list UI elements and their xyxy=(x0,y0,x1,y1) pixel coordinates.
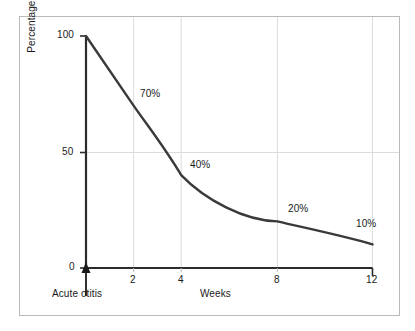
acute-otitis-label: Acute otitis xyxy=(52,288,102,299)
data-label-40-percent: 40% xyxy=(190,159,210,170)
y-tick-label-100: 100 xyxy=(57,29,74,40)
y-tick-label-50: 50 xyxy=(62,146,73,157)
chart-figure: 100 50 0 2 4 8 12 70% 40% 20% 10% Percen… xyxy=(0,0,415,331)
data-label-20-percent: 20% xyxy=(288,203,308,214)
x-tick-label-4: 4 xyxy=(178,274,184,285)
x-tick-label-8: 8 xyxy=(274,274,280,285)
y-axis-title: Percentage of children with OME xyxy=(26,0,40,68)
data-label-70-percent: 70% xyxy=(140,88,160,99)
x-tick-label-2: 2 xyxy=(130,274,136,285)
ome-resolution-curve xyxy=(86,36,373,244)
x-tick-label-12: 12 xyxy=(366,274,377,285)
y-axis-title-text: Percentage of children with OME xyxy=(26,0,37,68)
data-label-10-percent: 10% xyxy=(356,218,376,229)
y-tick-label-0: 0 xyxy=(69,261,75,272)
x-axis-title: Weeks xyxy=(200,288,231,299)
